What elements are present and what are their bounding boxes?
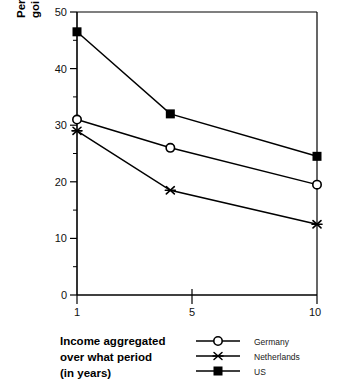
y-tick-label-30: 30 <box>55 119 67 131</box>
x-axis-title-line3: (in years) <box>60 367 111 379</box>
x-tick-label-1: 1 <box>74 306 80 318</box>
legend-label-germany: Germany <box>254 337 290 347</box>
series-line <box>77 131 317 224</box>
series-line <box>77 32 317 157</box>
x-axis-title-line1: Income aggregated <box>60 335 165 347</box>
series-netherlands <box>72 127 322 228</box>
star-icon <box>165 187 175 194</box>
legend-label-us: US <box>254 367 266 377</box>
y-axis-tick-labels: 50 40 30 20 10 0 <box>55 6 67 301</box>
x-tick-label-10: 10 <box>309 306 321 318</box>
y-tick-label-0: 0 <box>61 289 67 301</box>
series-layer <box>72 27 322 228</box>
legend-item-netherlands[interactable]: Netherlands <box>196 352 300 362</box>
filled-square-icon <box>313 152 322 161</box>
series-us <box>73 27 322 161</box>
chart-canvas: 50 40 30 20 10 0 1 5 10 Germany <box>0 0 337 388</box>
open-circle-icon <box>313 180 321 188</box>
x-axis-tick-labels: 1 5 10 <box>74 306 321 318</box>
chart-legend: Germany Netherlands US <box>196 337 300 377</box>
y-tick-label-20: 20 <box>55 176 67 188</box>
open-circle-icon <box>166 144 174 152</box>
y-tick-label-50: 50 <box>55 6 67 18</box>
x-axis-ticks <box>77 289 317 304</box>
open-circle-icon <box>214 337 222 345</box>
filled-square-icon <box>166 109 175 118</box>
x-axis-title: Income aggregated over what period (in y… <box>60 335 165 379</box>
legend-item-us[interactable]: US <box>196 367 266 377</box>
filled-square-icon <box>73 27 82 36</box>
filled-square-icon <box>214 367 223 376</box>
open-circle-icon <box>73 115 81 123</box>
chart-figure: Percentage of public transfer expenditur… <box>0 0 337 388</box>
x-tick-label-5: 5 <box>189 306 195 318</box>
legend-item-germany[interactable]: Germany <box>196 337 290 347</box>
x-axis-title-line2: over what period <box>60 351 152 363</box>
series-line <box>77 120 317 185</box>
star-icon <box>213 353 223 360</box>
y-tick-label-10: 10 <box>55 232 67 244</box>
y-tick-label-40: 40 <box>55 63 67 75</box>
legend-label-netherlands: Netherlands <box>254 352 300 362</box>
